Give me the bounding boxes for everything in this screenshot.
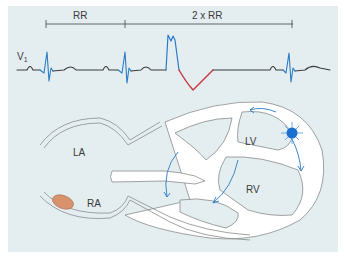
double-rr-label: 2 x RR bbox=[192, 11, 223, 21]
lead-letter: V bbox=[17, 51, 24, 62]
rv-label: RV bbox=[246, 185, 260, 195]
rr-interval-bracket bbox=[46, 20, 293, 28]
lead-label: V1 bbox=[17, 52, 28, 63]
rr-label: RR bbox=[73, 11, 87, 21]
ecg-and-heart-diagram bbox=[0, 0, 344, 259]
ra-label: RA bbox=[87, 199, 101, 209]
lead-subscript: 1 bbox=[24, 56, 28, 63]
ecg-trace bbox=[17, 35, 330, 90]
la-label: LA bbox=[73, 148, 85, 158]
lv-label: LV bbox=[245, 137, 257, 147]
